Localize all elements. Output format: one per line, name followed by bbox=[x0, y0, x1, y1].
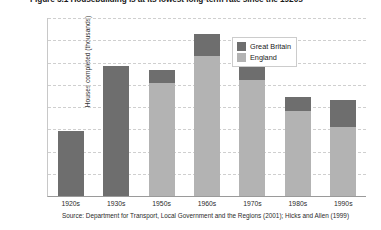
bar-segment-england bbox=[239, 80, 265, 196]
bar-1920s bbox=[58, 131, 84, 196]
y-axis-title: Houses completed (thousands) bbox=[84, 0, 91, 137]
x-axis-tick-label: 1980s bbox=[278, 200, 318, 207]
bar-segment-england bbox=[285, 111, 311, 196]
bar-segment-great-britain bbox=[58, 131, 84, 196]
legend-item: England bbox=[237, 52, 291, 63]
gridline bbox=[48, 18, 366, 19]
x-axis-tick-label: 1990s bbox=[323, 200, 363, 207]
source-note: Source: Department for Transport, Local … bbox=[62, 212, 349, 219]
bar-1990s bbox=[330, 100, 356, 196]
bar-1930s bbox=[103, 66, 129, 196]
bar-segment-great-britain bbox=[149, 70, 175, 82]
figure-container: Figure 5.1 Housebuilding is at its lowes… bbox=[0, 0, 381, 230]
figure-title: Figure 5.1 Housebuilding is at its lowes… bbox=[30, 0, 380, 8]
chart-legend: Great BritainEngland bbox=[232, 37, 297, 67]
plot-area: Houses completed (thousands) 05010015020… bbox=[47, 18, 366, 197]
legend-swatch-icon bbox=[237, 53, 246, 62]
x-axis-tick-label: 1970s bbox=[232, 200, 272, 207]
bar-segment-great-britain bbox=[194, 34, 220, 56]
bar-segment-great-britain bbox=[330, 100, 356, 127]
bar-segment-great-britain bbox=[285, 97, 311, 110]
x-axis-tick-label: 1960s bbox=[187, 200, 227, 207]
x-axis-tick-label: 1920s bbox=[51, 200, 91, 207]
legend-item-label: England bbox=[250, 53, 277, 62]
legend-swatch-icon bbox=[237, 42, 246, 51]
bar-segment-england bbox=[330, 127, 356, 196]
x-axis-tick-label: 1930s bbox=[96, 200, 136, 207]
bar-segment-england bbox=[149, 83, 175, 196]
bar-segment-great-britain bbox=[103, 66, 129, 196]
bar-segment-england bbox=[194, 56, 220, 196]
bar-1970s bbox=[239, 57, 265, 196]
bar-1950s bbox=[149, 70, 175, 196]
legend-item-label: Great Britain bbox=[250, 42, 291, 51]
bar-1980s bbox=[285, 97, 311, 196]
x-axis-tick-label: 1950s bbox=[142, 200, 182, 207]
bar-1960s bbox=[194, 34, 220, 196]
legend-item: Great Britain bbox=[237, 41, 291, 52]
